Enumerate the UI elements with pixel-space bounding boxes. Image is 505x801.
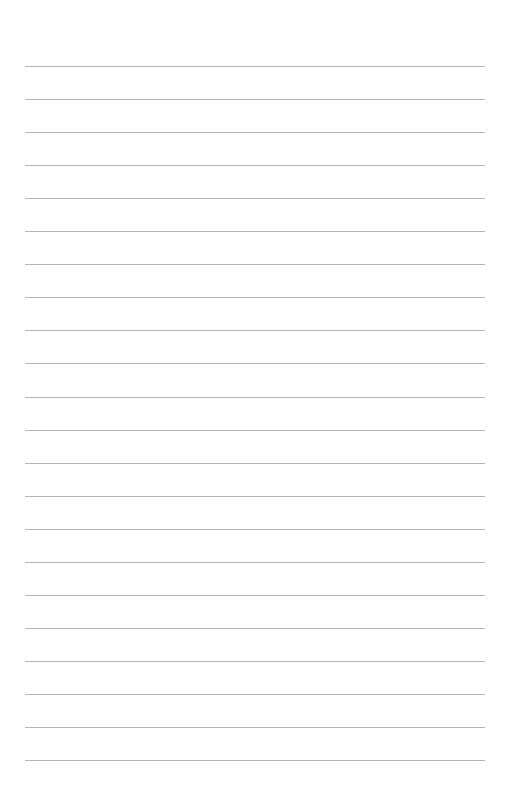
ruled-line [25, 463, 485, 464]
ruled-line [25, 397, 485, 398]
lined-paper-page [0, 0, 505, 801]
ruled-line [25, 727, 485, 728]
ruled-line [25, 231, 485, 232]
ruled-line [25, 165, 485, 166]
ruled-line [25, 694, 485, 695]
ruled-line [25, 595, 485, 596]
ruled-line [25, 66, 485, 67]
ruled-line [25, 760, 485, 761]
ruled-line [25, 562, 485, 563]
ruled-line [25, 198, 485, 199]
ruled-line [25, 132, 485, 133]
ruled-line [25, 99, 485, 100]
ruled-line [25, 430, 485, 431]
ruled-line [25, 661, 485, 662]
ruled-line [25, 628, 485, 629]
ruled-line [25, 297, 485, 298]
ruled-line [25, 529, 485, 530]
ruled-line [25, 330, 485, 331]
ruled-line [25, 264, 485, 265]
ruled-line [25, 496, 485, 497]
ruled-line [25, 363, 485, 364]
